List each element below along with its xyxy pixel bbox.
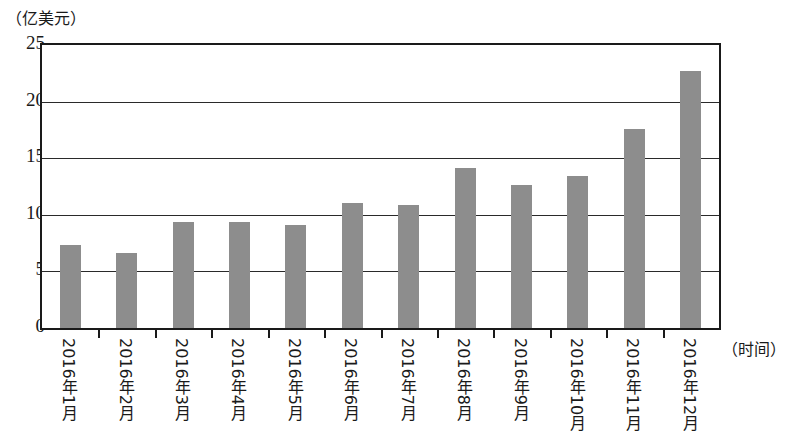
- x-axis-category-label: 2016年5月: [283, 338, 305, 421]
- bar: [680, 71, 701, 328]
- bar: [116, 253, 137, 328]
- x-axis-category-label: 2016年9月: [509, 338, 531, 421]
- bar: [567, 176, 588, 328]
- x-axis-tick: [606, 328, 608, 338]
- x-axis-category-label: 2016年10月: [565, 338, 587, 431]
- x-axis-category-label: 2016年4月: [226, 338, 248, 421]
- bar: [455, 168, 476, 328]
- bar: [229, 222, 250, 328]
- x-axis-category-label: 2016年3月: [170, 338, 192, 421]
- bar: [60, 245, 81, 328]
- x-axis-category-label: 2016年7月: [396, 338, 418, 421]
- x-axis-tick: [381, 328, 383, 338]
- x-axis-tick: [493, 328, 495, 338]
- bar: [624, 129, 645, 328]
- x-axis-category-label: 2016年12月: [678, 338, 700, 431]
- x-axis-unit-label: （时间）: [722, 336, 786, 360]
- gridline: [42, 102, 719, 103]
- x-axis-tick: [211, 328, 213, 338]
- x-axis-tick: [437, 328, 439, 338]
- y-axis-unit-label: （亿美元）: [6, 5, 86, 29]
- x-axis-tick: [98, 328, 100, 338]
- x-axis-tick: [268, 328, 270, 338]
- x-axis-category-label: 2016年11月: [621, 338, 643, 431]
- bar: [173, 222, 194, 328]
- plot-area: [40, 43, 721, 330]
- bar: [511, 185, 532, 328]
- x-axis-tick: [155, 328, 157, 338]
- x-axis-category-label: 2016年8月: [452, 338, 474, 421]
- x-axis-category-label: 2016年1月: [57, 338, 79, 421]
- x-axis-tick: [324, 328, 326, 338]
- bar-chart: （亿美元） 0510152025 2016年1月2016年2月2016年3月20…: [0, 0, 789, 439]
- bar: [285, 225, 306, 328]
- bar: [342, 203, 363, 328]
- gridline: [42, 158, 719, 159]
- x-axis-category-label: 2016年2月: [114, 338, 136, 421]
- gridline: [42, 215, 719, 216]
- x-axis-category-label: 2016年6月: [339, 338, 361, 421]
- x-axis-tick: [550, 328, 552, 338]
- gridline: [42, 271, 719, 272]
- bar: [398, 205, 419, 328]
- x-axis-tick: [663, 328, 665, 338]
